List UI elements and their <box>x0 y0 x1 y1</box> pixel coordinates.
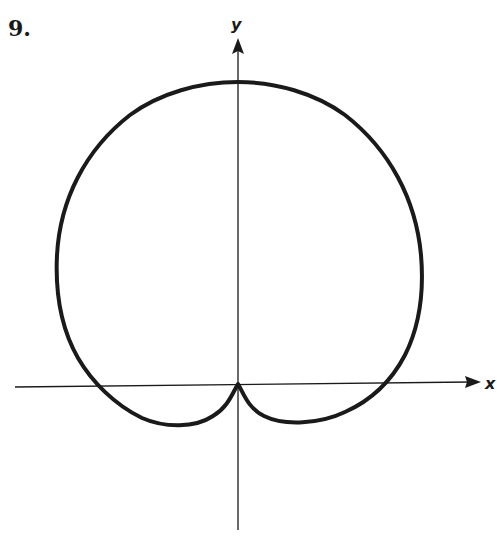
polar-curve-figure: 9. x y <box>0 0 497 539</box>
x-axis-arrow-icon <box>465 376 481 388</box>
polar-curve <box>57 82 422 425</box>
y-axis: y <box>231 15 244 530</box>
x-axis-label: x <box>484 374 496 393</box>
x-axis: x <box>15 374 496 393</box>
problem-number: 9. <box>8 15 31 41</box>
y-axis-label: y <box>231 15 242 34</box>
